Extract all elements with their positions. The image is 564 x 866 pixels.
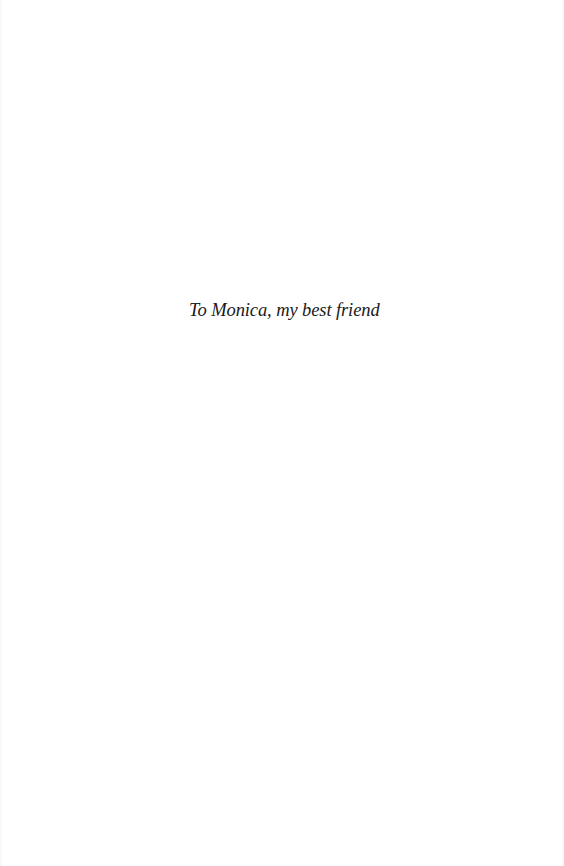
book-page: To Monica, my best friend xyxy=(0,0,564,866)
dedication-text: To Monica, my best friend xyxy=(189,298,359,322)
page-edge-left xyxy=(0,0,3,866)
